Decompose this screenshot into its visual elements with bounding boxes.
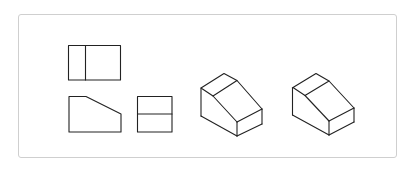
isometric-view-2 [293,74,355,136]
side-view [138,97,173,133]
figure-stage [0,0,416,170]
technical-drawing [0,0,416,170]
front-view [69,97,121,133]
isometric-view-1 [201,74,262,137]
top-view [69,46,121,81]
